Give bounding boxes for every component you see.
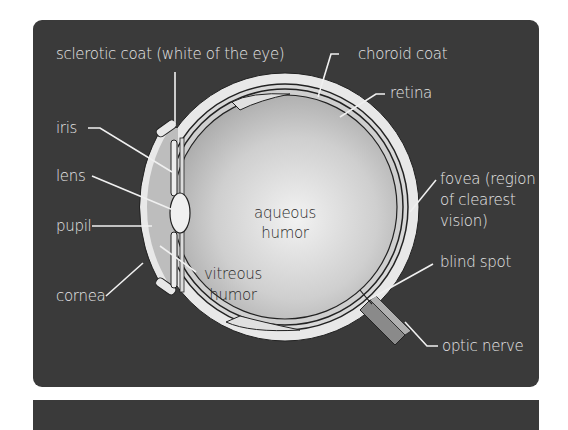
- label-cornea: cornea: [56, 287, 105, 306]
- lens: [170, 193, 190, 233]
- label-sclerotic-coat: sclerotic coat (white of the eye): [56, 45, 284, 64]
- label-fovea-1: fovea (region: [440, 170, 535, 189]
- label-vitreous-1: vitreous: [198, 265, 268, 284]
- label-fovea-2: of clearest: [440, 191, 516, 210]
- label-blind-spot: blind spot: [440, 253, 511, 272]
- label-optic-nerve: optic nerve: [442, 337, 523, 356]
- label-choroid-coat: choroid coat: [358, 45, 447, 64]
- label-retina: retina: [390, 84, 432, 103]
- label-pupil: pupil: [56, 217, 91, 236]
- label-aqueous-1: aqueous: [250, 204, 320, 223]
- label-iris: iris: [56, 119, 77, 138]
- label-fovea-3: vision): [440, 212, 487, 231]
- label-aqueous-2: humor: [250, 224, 320, 243]
- label-vitreous-2: humor: [198, 286, 268, 305]
- label-lens: lens: [56, 167, 86, 186]
